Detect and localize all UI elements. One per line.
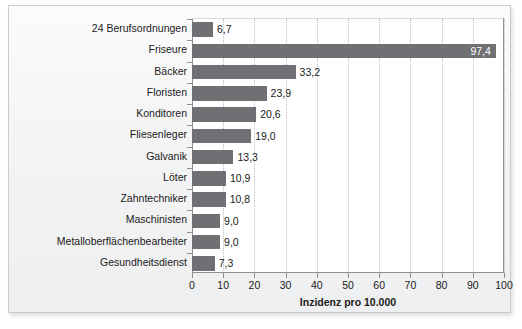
- x-tick-label: 50: [342, 279, 354, 291]
- category-label: Zahntechniker: [17, 188, 187, 209]
- bar-value-label: 9,0: [224, 235, 239, 249]
- y-tick: [187, 210, 192, 211]
- x-tick: [410, 273, 411, 278]
- x-tick: [348, 273, 349, 278]
- bar-row[interactable]: 10,9: [192, 168, 503, 189]
- y-tick: [187, 104, 192, 105]
- y-tick: [187, 232, 192, 233]
- x-tick: [379, 273, 380, 278]
- bar[interactable]: [192, 235, 220, 249]
- bar-row[interactable]: 6,7: [192, 19, 503, 40]
- bar-value-label: 9,0: [224, 214, 239, 228]
- bar[interactable]: [192, 171, 226, 185]
- x-tick: [473, 273, 474, 278]
- bar-row[interactable]: 23,9: [192, 83, 503, 104]
- bar[interactable]: [192, 22, 213, 36]
- x-axis-tick-labels: 0102030405060708090100: [192, 279, 504, 295]
- x-tick-label: 0: [189, 279, 195, 291]
- category-label: Maschinisten: [17, 209, 187, 230]
- x-tick: [442, 273, 443, 278]
- gridline-100: [504, 19, 505, 273]
- bar[interactable]: [192, 86, 267, 100]
- bar-row[interactable]: 7,3: [192, 253, 503, 274]
- category-label: Friseure: [17, 39, 187, 60]
- bar-value-label: 20,6: [260, 107, 280, 121]
- bar[interactable]: [192, 150, 233, 164]
- category-label: Metalloberflächenbearbeiter: [17, 231, 187, 252]
- bar-series: 6,797,433,223,920,619,013,310,910,89,09,…: [192, 19, 503, 273]
- bar[interactable]: [192, 129, 251, 143]
- y-tick: [187, 168, 192, 169]
- category-label: Floristen: [17, 82, 187, 103]
- bar[interactable]: [192, 65, 296, 79]
- bar-row[interactable]: 19,0: [192, 125, 503, 146]
- x-tick-label: 60: [373, 279, 385, 291]
- y-tick: [187, 83, 192, 84]
- x-tick: [286, 273, 287, 278]
- y-tick: [187, 253, 192, 254]
- bar-row[interactable]: 9,0: [192, 210, 503, 231]
- bar-value-label: 97,4: [192, 44, 491, 58]
- bar-value-label: 23,9: [271, 86, 291, 100]
- category-label: Fliesenleger: [17, 124, 187, 145]
- bar-row[interactable]: 13,3: [192, 147, 503, 168]
- bar-value-label: 19,0: [255, 129, 275, 143]
- x-tick: [504, 273, 505, 278]
- y-tick: [187, 19, 192, 20]
- category-label: Konditoren: [17, 103, 187, 124]
- bar-row[interactable]: 9,0: [192, 232, 503, 253]
- x-tick-label: 10: [217, 279, 229, 291]
- y-tick: [187, 189, 192, 190]
- bar[interactable]: [192, 256, 215, 270]
- category-axis-labels: 24 BerufsordnungenFriseureBäckerFloriste…: [17, 18, 187, 273]
- y-tick: [187, 40, 192, 41]
- bar-value-label: 7,3: [219, 256, 234, 270]
- category-label: Bäcker: [17, 61, 187, 82]
- bar-value-label: 33,2: [300, 65, 320, 79]
- category-label: Löter: [17, 167, 187, 188]
- bar[interactable]: [192, 107, 256, 121]
- bar-value-label: 10,9: [230, 171, 250, 185]
- x-tick-label: 30: [280, 279, 292, 291]
- x-tick: [317, 273, 318, 278]
- x-tick-label: 40: [311, 279, 323, 291]
- category-label: Galvanik: [17, 146, 187, 167]
- x-tick: [254, 273, 255, 278]
- y-tick: [187, 125, 192, 126]
- figure-container: 24 BerufsordnungenFriseureBäckerFloriste…: [0, 0, 522, 329]
- plot-area: 6,797,433,223,920,619,013,310,910,89,09,…: [192, 18, 504, 273]
- category-label: Gesundheitsdienst: [17, 252, 187, 273]
- bar-row[interactable]: 33,2: [192, 62, 503, 83]
- x-tick-label: 20: [249, 279, 261, 291]
- bar[interactable]: [192, 192, 226, 206]
- bar-row[interactable]: 20,6: [192, 104, 503, 125]
- x-tick-label: 80: [436, 279, 448, 291]
- bar-row[interactable]: 10,8: [192, 189, 503, 210]
- y-tick: [187, 62, 192, 63]
- bar-value-label: 10,8: [230, 192, 250, 206]
- x-axis-title: Inzidenz pro 10.000: [192, 296, 504, 308]
- x-tick-label: 100: [495, 279, 513, 291]
- category-label: 24 Berufsordnungen: [17, 18, 187, 39]
- bar-value-label: 13,3: [237, 150, 257, 164]
- y-tick: [187, 147, 192, 148]
- chart-card: 24 BerufsordnungenFriseureBäckerFloriste…: [8, 5, 511, 313]
- bar-value-label: 6,7: [217, 22, 232, 36]
- x-tick-label: 90: [467, 279, 479, 291]
- bar[interactable]: [192, 214, 220, 228]
- x-tick: [223, 273, 224, 278]
- bar-row[interactable]: 97,4: [192, 40, 503, 61]
- x-tick-label: 70: [405, 279, 417, 291]
- x-tick: [192, 273, 193, 278]
